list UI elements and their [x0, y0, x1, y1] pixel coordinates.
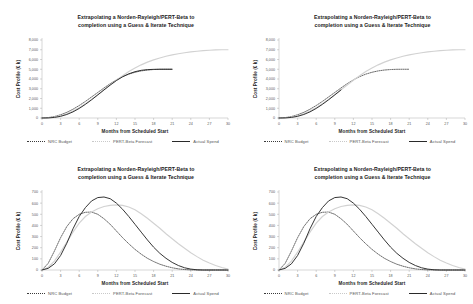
- svg-text:18: 18: [152, 274, 156, 278]
- svg-text:15: 15: [369, 122, 373, 126]
- svg-text:21: 21: [170, 122, 174, 126]
- svg-text:Cost Profile (€ k): Cost Profile (€ k): [253, 211, 258, 250]
- svg-text:0: 0: [36, 268, 38, 272]
- svg-text:30: 30: [226, 122, 230, 126]
- legend-label-actual: Actual Spend: [193, 291, 219, 296]
- svg-text:100: 100: [32, 257, 38, 261]
- svg-text:24: 24: [425, 122, 429, 126]
- legend-label-pert: PERT-Beta Forecast: [113, 291, 152, 296]
- svg-text:Cost Profile (€ k): Cost Profile (€ k): [16, 211, 21, 250]
- legend-label-pert: PERT-Beta Forecast: [113, 139, 152, 144]
- legend-item-nrc-budget: NRC Budget: [27, 291, 72, 296]
- legend-swatch-actual-icon: [172, 141, 190, 142]
- legend-label-pert: PERT-Beta Forecast: [350, 139, 389, 144]
- svg-text:21: 21: [407, 122, 411, 126]
- svg-text:300: 300: [32, 235, 38, 239]
- svg-text:700: 700: [268, 190, 274, 194]
- legend-item-nrc-budget: NRC Budget: [264, 139, 309, 144]
- svg-text:12: 12: [351, 274, 355, 278]
- svg-text:300: 300: [268, 235, 274, 239]
- svg-text:6: 6: [78, 274, 80, 278]
- svg-text:21: 21: [170, 274, 174, 278]
- chart-panel-bottom-left: Extrapolating a Norden-Rayleigh/PERT-Bet…: [0, 152, 236, 304]
- svg-text:18: 18: [388, 122, 392, 126]
- svg-text:6: 6: [315, 122, 317, 126]
- svg-text:100: 100: [268, 257, 274, 261]
- svg-text:3: 3: [60, 122, 62, 126]
- svg-text:Months from Scheduled Start: Months from Scheduled Start: [338, 281, 405, 286]
- svg-text:3,000: 3,000: [29, 87, 38, 91]
- legend-swatch-actual-icon: [409, 141, 427, 142]
- legend-label-nrc: NRC Budget: [48, 139, 72, 144]
- svg-text:27: 27: [444, 274, 448, 278]
- svg-text:9: 9: [97, 274, 99, 278]
- legend-item-pert-beta-forecast: PERT-Beta Forecast: [329, 139, 389, 144]
- svg-text:500: 500: [268, 213, 274, 217]
- svg-text:8,000: 8,000: [29, 38, 38, 42]
- svg-text:12: 12: [114, 122, 118, 126]
- svg-text:700: 700: [32, 190, 38, 194]
- legend-swatch-nrc-icon: [264, 293, 282, 294]
- svg-text:30: 30: [462, 122, 466, 126]
- chart-panel-top-right: Extrapolating a Norden-Rayleigh/PERT-Bet…: [237, 0, 473, 152]
- legend-item-actual-spend: Actual Spend: [409, 139, 456, 144]
- chart-panel-top-left: Extrapolating a Norden-Rayleigh/PERT-Bet…: [0, 0, 236, 152]
- chart-svg-top-left: 03691215182124273001,0002,0003,0004,0005…: [0, 0, 236, 152]
- svg-text:Months from Scheduled Start: Months from Scheduled Start: [102, 129, 169, 134]
- chart-svg-top-right: 03691215182124273001,0002,0003,0004,0005…: [237, 0, 473, 152]
- svg-text:0: 0: [36, 116, 38, 120]
- chart-panel-bottom-right: Extrapolating a Norden-Rayleigh/PERT-Bet…: [237, 152, 473, 304]
- svg-text:15: 15: [133, 122, 137, 126]
- svg-text:400: 400: [268, 224, 274, 228]
- svg-text:24: 24: [425, 274, 429, 278]
- svg-text:600: 600: [268, 202, 274, 206]
- legend-item-pert-beta-forecast: PERT-Beta Forecast: [92, 291, 152, 296]
- svg-text:0: 0: [272, 268, 274, 272]
- svg-text:12: 12: [114, 274, 118, 278]
- svg-text:600: 600: [32, 202, 38, 206]
- svg-text:27: 27: [207, 122, 211, 126]
- svg-text:7,000: 7,000: [265, 48, 274, 52]
- svg-text:6: 6: [315, 274, 317, 278]
- legend-swatch-pert-icon: [92, 293, 110, 294]
- svg-text:30: 30: [462, 274, 466, 278]
- legend-item-pert-beta-forecast: PERT-Beta Forecast: [92, 139, 152, 144]
- svg-text:0: 0: [41, 274, 43, 278]
- svg-text:1,000: 1,000: [29, 107, 38, 111]
- svg-text:1,000: 1,000: [265, 107, 274, 111]
- svg-text:3,000: 3,000: [265, 87, 274, 91]
- svg-text:Months from Scheduled Start: Months from Scheduled Start: [102, 281, 169, 286]
- svg-text:24: 24: [189, 122, 193, 126]
- svg-text:3: 3: [60, 274, 62, 278]
- svg-text:500: 500: [32, 213, 38, 217]
- legend-swatch-pert-icon: [329, 293, 347, 294]
- legend-label-actual: Actual Spend: [430, 139, 456, 144]
- svg-text:8,000: 8,000: [265, 38, 274, 42]
- legend-swatch-nrc-icon: [264, 141, 282, 142]
- svg-text:Cost Profile (€ k): Cost Profile (€ k): [16, 59, 21, 98]
- legend-item-pert-beta-forecast: PERT-Beta Forecast: [329, 291, 389, 296]
- svg-text:6,000: 6,000: [29, 58, 38, 62]
- svg-text:200: 200: [32, 246, 38, 250]
- legend-label-nrc: NRC Budget: [285, 139, 309, 144]
- svg-text:12: 12: [351, 122, 355, 126]
- svg-text:27: 27: [207, 274, 211, 278]
- svg-text:15: 15: [369, 274, 373, 278]
- chart-svg-bottom-left: 0369121518212427300100200300400500600700…: [0, 152, 236, 304]
- legend-label-nrc: NRC Budget: [285, 291, 309, 296]
- chart-grid: Extrapolating a Norden-Rayleigh/PERT-Bet…: [0, 0, 473, 304]
- svg-text:18: 18: [152, 122, 156, 126]
- legend-item-nrc-budget: NRC Budget: [27, 139, 72, 144]
- legend-item-nrc-budget: NRC Budget: [264, 291, 309, 296]
- svg-text:30: 30: [226, 274, 230, 278]
- legend-swatch-pert-icon: [92, 141, 110, 142]
- svg-text:9: 9: [97, 122, 99, 126]
- chart-legend: NRC Budget PERT-Beta Forecast Actual Spe…: [24, 291, 222, 296]
- svg-text:3: 3: [296, 122, 298, 126]
- legend-label-actual: Actual Spend: [193, 139, 219, 144]
- svg-text:0: 0: [272, 116, 274, 120]
- chart-svg-bottom-right: 0369121518212427300100200300400500600700…: [237, 152, 473, 304]
- legend-label-actual: Actual Spend: [430, 291, 456, 296]
- svg-text:2,000: 2,000: [29, 97, 38, 101]
- svg-text:0: 0: [277, 122, 279, 126]
